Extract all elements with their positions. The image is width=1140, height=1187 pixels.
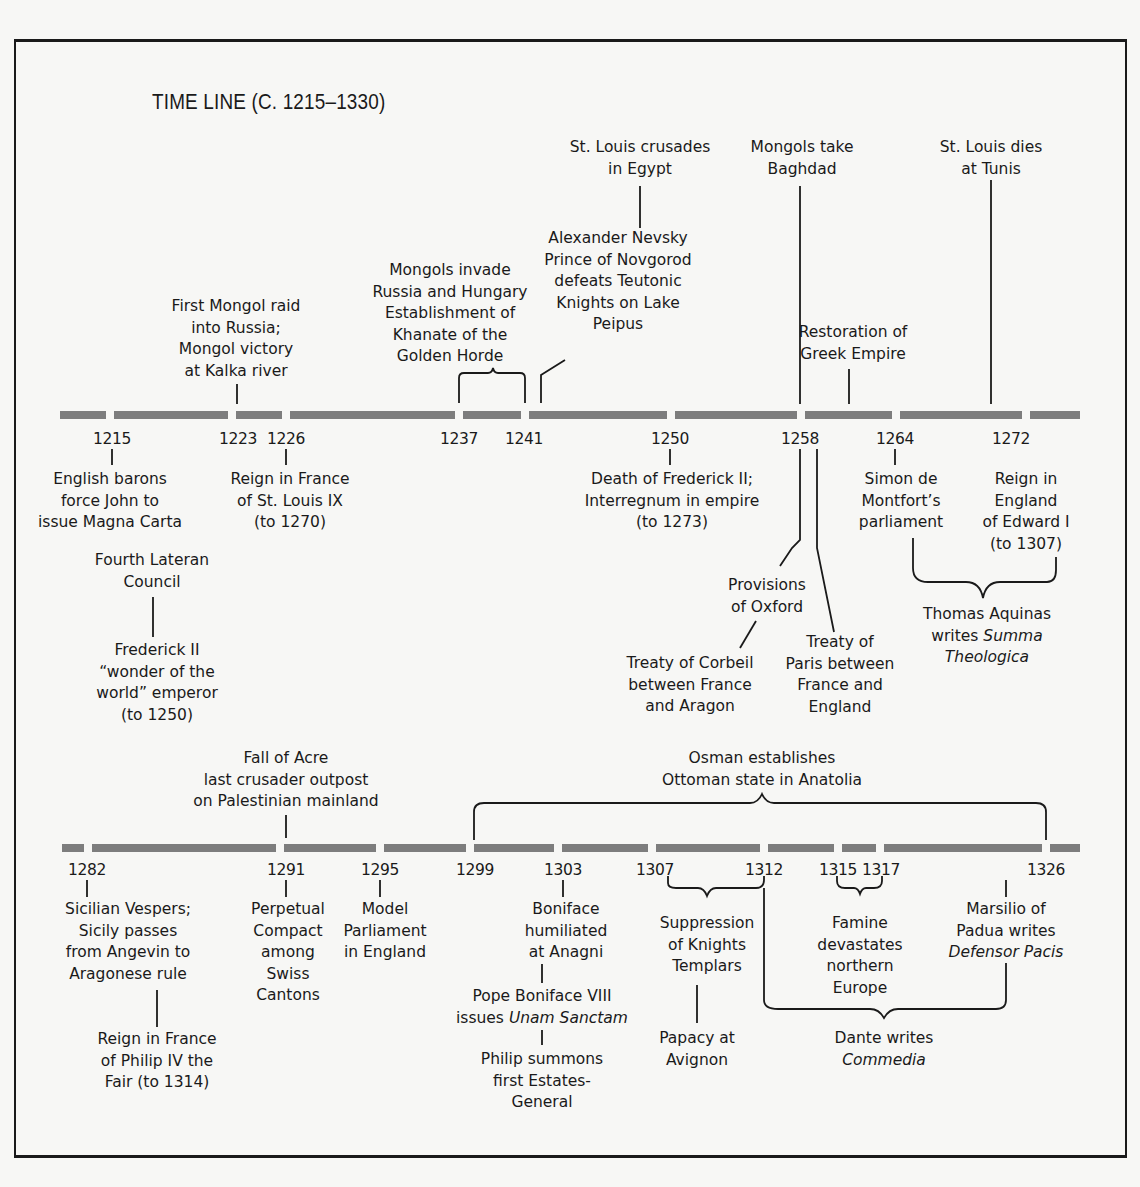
event-text-line: Reign in France xyxy=(230,469,349,491)
event-reign-edward: Reign inEnglandof Edward I(to 1307) xyxy=(982,469,1069,555)
event-text-line: of Philip IV the xyxy=(97,1051,216,1073)
timeline-bar-segment xyxy=(884,844,1042,852)
event-perpetual-compact: PerpetualCompactamongSwissCantons xyxy=(251,899,325,1007)
event-fall-of-acre: Fall of Acrelast crusader outposton Pale… xyxy=(193,748,378,813)
year-label-1272: 1272 xyxy=(992,430,1030,448)
timeline-bar-segment xyxy=(1030,411,1080,419)
event-text-line: Templars xyxy=(660,956,755,978)
event-provisions-oxford: Provisionsof Oxford xyxy=(728,575,806,618)
event-text-line: Padua writes xyxy=(949,921,1064,943)
timeline-bar-segment xyxy=(529,411,667,419)
event-text-line: Reign in France xyxy=(97,1029,216,1051)
event-knights-templars: Suppressionof KnightsTemplars xyxy=(660,913,755,978)
event-text-line: Golden Horde xyxy=(372,346,527,368)
event-death-frederick: Death of Frederick II;Interregnum in emp… xyxy=(585,469,760,534)
timeline-bar-segment xyxy=(900,411,1022,419)
event-text-line: Osman establishes xyxy=(662,748,862,770)
year-label-1326: 1326 xyxy=(1027,861,1065,879)
timeline-bar-segment xyxy=(805,411,892,419)
event-text-line: last crusader outpost xyxy=(193,770,378,792)
timeline-bar-segment xyxy=(62,844,84,852)
event-text-line: in England xyxy=(343,942,426,964)
event-text-line: “wonder of the xyxy=(96,662,218,684)
event-text-line: Greek Empire xyxy=(799,344,908,366)
event-text-line: Simon de xyxy=(859,469,943,491)
event-first-mongol-raid: First Mongol raidinto Russia;Mongol vict… xyxy=(172,296,301,382)
event-text-line: Paris between xyxy=(786,654,895,676)
event-text-line: defeats Teutonic xyxy=(544,271,691,293)
event-text-line: (to 1307) xyxy=(982,534,1069,556)
event-text-line: Suppression xyxy=(660,913,755,935)
year-label-1258: 1258 xyxy=(781,430,819,448)
year-label-1237: 1237 xyxy=(440,430,478,448)
event-text-line: General xyxy=(481,1092,603,1114)
event-text-line: England xyxy=(982,491,1069,513)
event-marsilio: Marsilio ofPadua writesDefensor Pacis xyxy=(949,899,1064,964)
event-text-line: Peipus xyxy=(544,314,691,336)
year-label-1226: 1226 xyxy=(267,430,305,448)
event-text-line: Parliament xyxy=(343,921,426,943)
event-text-line: Alexander Nevsky xyxy=(544,228,691,250)
event-st-louis-dies: St. Louis diesat Tunis xyxy=(940,137,1043,180)
event-text-line: Commedia xyxy=(835,1050,934,1072)
year-label-1315: 1315 xyxy=(819,861,857,879)
event-english-barons: English baronsforce John toissue Magna C… xyxy=(38,469,182,534)
event-st-louis-crusades: St. Louis crusadesin Egypt xyxy=(570,137,711,180)
timeline-bar-segment xyxy=(284,844,376,852)
event-text-line: of St. Louis IX xyxy=(230,491,349,513)
event-text-line: at Anagni xyxy=(525,942,608,964)
timeline-bar-segment xyxy=(474,844,554,852)
event-text-line: northern xyxy=(817,956,902,978)
event-text-line: Fall of Acre xyxy=(193,748,378,770)
event-treaty-paris: Treaty ofParis betweenFrance andEngland xyxy=(786,632,895,718)
event-model-parliament: ModelParliamentin England xyxy=(343,899,426,964)
event-osman: Osman establishesOttoman state in Anatol… xyxy=(662,748,862,791)
event-text-line: of Oxford xyxy=(728,597,806,619)
timeline-bar-segment xyxy=(842,844,876,852)
event-text-line: Defensor Pacis xyxy=(949,942,1064,964)
event-text-line: and Aragon xyxy=(627,696,754,718)
event-text-line: Mongol victory xyxy=(172,339,301,361)
event-text-line: Council xyxy=(95,572,209,594)
page-title: TIME LINE (C. 1215–1330) xyxy=(152,89,385,115)
event-simon-de-montfort: Simon deMontfort’sparliament xyxy=(859,469,943,534)
event-text-line: (to 1273) xyxy=(585,512,760,534)
year-label-1250: 1250 xyxy=(651,430,689,448)
event-text-line: Marsilio of xyxy=(949,899,1064,921)
event-text-line: at Tunis xyxy=(940,159,1043,181)
event-text-line: Papacy at xyxy=(659,1028,735,1050)
event-restoration-greek-empire: Restoration ofGreek Empire xyxy=(799,322,908,365)
event-text-line: first Estates- xyxy=(481,1071,603,1093)
timeline-bar-segment xyxy=(656,844,760,852)
year-label-1291: 1291 xyxy=(267,861,305,879)
event-text-line: issues Unam Sanctam xyxy=(456,1008,628,1030)
year-label-1312: 1312 xyxy=(745,861,783,879)
year-label-1295: 1295 xyxy=(361,861,399,879)
event-papacy-avignon: Papacy atAvignon xyxy=(659,1028,735,1071)
event-text-line: on Palestinian mainland xyxy=(193,791,378,813)
event-text-line: world” emperor xyxy=(96,683,218,705)
event-text-line: Montfort’s xyxy=(859,491,943,513)
timeline-bar-segment xyxy=(60,411,106,419)
event-text-line: Europe xyxy=(817,978,902,1000)
event-text-line: devastates xyxy=(817,935,902,957)
year-label-1303: 1303 xyxy=(544,861,582,879)
timeline-bar-segment xyxy=(384,844,466,852)
event-text-line: England xyxy=(786,697,895,719)
event-mongols-take-baghdad: Mongols takeBaghdad xyxy=(751,137,854,180)
event-text-line: Treaty of Corbeil xyxy=(627,653,754,675)
event-text-line: Thomas Aquinas xyxy=(923,604,1051,626)
event-dante: Dante writesCommedia xyxy=(835,1028,934,1071)
event-text-line: Fourth Lateran xyxy=(95,550,209,572)
event-text-line: from Angevin to xyxy=(65,942,191,964)
event-text-line: into Russia; xyxy=(172,318,301,340)
event-estates-general: Philip summonsfirst Estates-General xyxy=(481,1049,603,1114)
event-text-line: force John to xyxy=(38,491,182,513)
event-text-line: Frederick II xyxy=(96,640,218,662)
event-text-line: Cantons xyxy=(251,985,325,1007)
event-treaty-corbeil: Treaty of Corbeilbetween Franceand Arago… xyxy=(627,653,754,718)
event-text-line: (to 1270) xyxy=(230,512,349,534)
event-text-line: First Mongol raid xyxy=(172,296,301,318)
event-text-line: between France xyxy=(627,675,754,697)
event-text-line: at Kalka river xyxy=(172,361,301,383)
